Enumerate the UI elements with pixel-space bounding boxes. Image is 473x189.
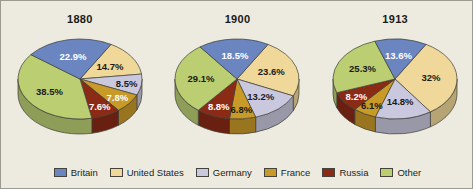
slice-percent-label: 6.8%	[231, 104, 253, 115]
legend-label: Other	[397, 167, 421, 178]
slice-percent-label: 14.8%	[387, 96, 414, 107]
slice-percent-label: 7.6%	[89, 101, 111, 112]
legend-swatch-icon	[380, 168, 393, 177]
pie-svg: 14.7%8.5%7.8%7.6%38.5%22.9%	[10, 27, 150, 145]
legend-label: Russia	[339, 167, 368, 178]
legend-swatch-icon	[322, 168, 335, 177]
slice-percent-label: 22.9%	[59, 51, 86, 62]
legend-label: United States	[127, 167, 184, 178]
legend-label: Germany	[213, 167, 252, 178]
pie-canvas: 32%14.8%6.1%8.2%25.3%13.6%	[325, 27, 465, 145]
pie-canvas: 14.7%8.5%7.8%7.6%38.5%22.9%	[10, 27, 150, 145]
legend: BritainUnited StatesGermanyFranceRussiaO…	[1, 167, 473, 178]
slice-percent-label: 25.3%	[349, 63, 376, 74]
chart-title: 1900	[161, 13, 313, 25]
legend-label: France	[281, 167, 311, 178]
slice-percent-label: 32%	[422, 72, 442, 83]
legend-item[interactable]: France	[264, 167, 311, 178]
pie-chart-figure: 1880 14.7%8.5%7.8%7.6%38.5%22.9% 1900 23…	[0, 0, 473, 189]
slice-percent-label: 18.5%	[222, 50, 249, 61]
charts-row: 1880 14.7%8.5%7.8%7.6%38.5%22.9% 1900 23…	[1, 5, 473, 149]
pie-svg: 32%14.8%6.1%8.2%25.3%13.6%	[325, 27, 465, 145]
chart-title: 1880	[4, 13, 156, 25]
legend-swatch-icon	[54, 168, 67, 177]
pie-chart-1913: 1913 32%14.8%6.1%8.2%25.3%13.6%	[319, 5, 471, 149]
slice-percent-label: 8.5%	[116, 78, 138, 89]
legend-label: Britain	[71, 167, 98, 178]
legend-swatch-icon	[264, 168, 277, 177]
slice-percent-label: 23.6%	[258, 66, 285, 77]
pie-slice-side	[230, 117, 256, 134]
legend-item[interactable]: United States	[110, 167, 184, 178]
slice-percent-label: 8.2%	[346, 91, 368, 102]
legend-swatch-icon	[196, 168, 209, 177]
slice-percent-label: 8.8%	[208, 101, 230, 112]
chart-title: 1913	[319, 13, 471, 25]
legend-swatch-icon	[110, 168, 123, 177]
slice-percent-label: 14.7%	[96, 61, 123, 72]
slice-percent-label: 13.2%	[248, 91, 275, 102]
legend-item[interactable]: Britain	[54, 167, 98, 178]
slice-percent-label: 13.6%	[385, 50, 412, 61]
slice-percent-label: 29.1%	[188, 73, 215, 84]
pie-svg: 23.6%13.2%6.8%8.8%29.1%18.5%	[167, 27, 307, 145]
pie-chart-1900: 1900 23.6%13.2%6.8%8.8%29.1%18.5%	[161, 5, 313, 149]
legend-item[interactable]: Other	[380, 167, 421, 178]
legend-item[interactable]: Germany	[196, 167, 252, 178]
pie-canvas: 23.6%13.2%6.8%8.8%29.1%18.5%	[167, 27, 307, 145]
slice-percent-label: 38.5%	[36, 86, 63, 97]
pie-chart-1880: 1880 14.7%8.5%7.8%7.6%38.5%22.9%	[4, 5, 156, 149]
legend-item[interactable]: Russia	[322, 167, 368, 178]
